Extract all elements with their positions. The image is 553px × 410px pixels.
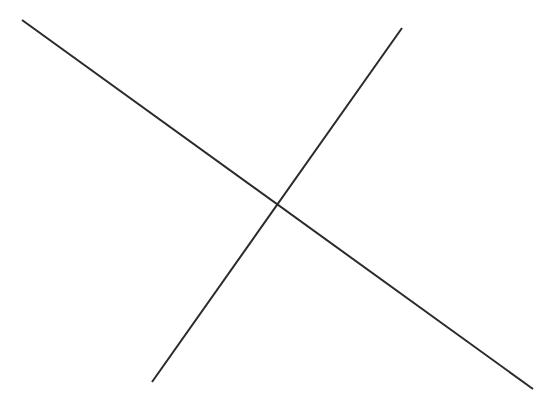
drawing-canvas: [0, 0, 553, 410]
line-figure: [0, 0, 553, 410]
